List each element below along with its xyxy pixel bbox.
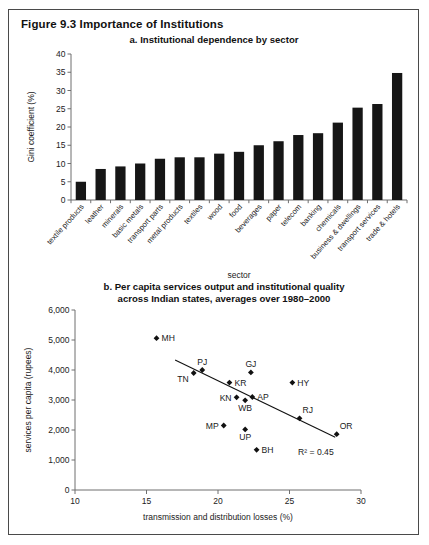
bar: [254, 145, 264, 200]
bar: [352, 108, 362, 200]
data-point-label: AP: [257, 392, 269, 402]
panel-b-y-tick-label: 5,000: [48, 335, 70, 345]
bar: [115, 166, 125, 200]
bar-chart-svg: a. Institutional dependence by sector051…: [9, 32, 418, 284]
data-point-label: HY: [297, 378, 309, 388]
scatter-point: MH: [154, 333, 175, 343]
data-marker: [234, 394, 240, 400]
data-marker: [227, 380, 233, 386]
scatter-chart-svg: b. Per capita services output and instit…: [9, 278, 418, 534]
panel-a-y-tick-label: 30: [56, 86, 66, 96]
bar: [76, 182, 86, 200]
panel-b-x-tick-label: 30: [356, 496, 366, 506]
bar: [175, 157, 185, 200]
panel-b-y-tick-label: 3,000: [48, 395, 70, 405]
panel-b-x-tick-label: 10: [70, 496, 80, 506]
scatter-point: UP: [239, 427, 251, 443]
data-marker: [249, 394, 255, 400]
scatter-point: AP: [249, 392, 269, 402]
scatter-point: OR: [334, 421, 353, 437]
data-marker: [191, 370, 197, 376]
data-point-label: PJ: [197, 357, 207, 367]
scatter-point: MP: [206, 421, 227, 431]
bar: [135, 164, 145, 201]
scatter-point: KN: [220, 393, 240, 403]
panel-a-y-tick-label: 0: [61, 195, 66, 205]
data-point-label: KN: [220, 393, 232, 403]
data-point-label: BH: [262, 445, 274, 455]
bar: [96, 169, 106, 200]
data-point-label: GJ: [245, 359, 256, 369]
panel-a-y-tick-label: 5: [61, 177, 66, 187]
bar: [372, 104, 382, 200]
data-marker: [248, 370, 254, 376]
figure-container: Figure 9.3 Importance of Institutions a.…: [8, 9, 419, 535]
scatter-point: WB: [238, 397, 252, 413]
panel-a-chart: a. Institutional dependence by sector051…: [9, 32, 418, 284]
data-marker: [334, 431, 340, 437]
panel-a-category-label: food: [227, 202, 244, 219]
panel-b-y-axis-title: services per capita (rupees): [23, 347, 33, 452]
panel-b-title-line2: across Indian states, averages over 1980…: [118, 293, 331, 304]
bar: [313, 133, 323, 200]
data-point-label: MP: [206, 421, 219, 431]
panel-a-y-tick-label: 40: [56, 49, 66, 59]
panel-a-category-label: textile products: [45, 202, 86, 246]
bar: [392, 73, 402, 200]
panel-b-x-tick-label: 15: [142, 496, 152, 506]
bar: [273, 141, 283, 200]
data-point-label: RJ: [303, 405, 314, 415]
panel-a-y-tick-label: 15: [56, 140, 66, 150]
panel-b-x-tick-label: 25: [285, 496, 295, 506]
scatter-point: BH: [254, 445, 274, 455]
bar: [194, 157, 204, 200]
panel-b-y-tick-label: 4,000: [48, 365, 70, 375]
data-point-label: TN: [177, 374, 188, 384]
panel-b-y-tick-label: 1,000: [48, 455, 70, 465]
r-squared-annotation: R² = 0.45: [298, 447, 334, 457]
panel-b-x-axis-title: transmission and distribution losses (%): [143, 512, 293, 522]
scatter-point: GJ: [245, 359, 256, 375]
panel-a-category-label: wood: [205, 202, 225, 222]
data-point-label: WB: [238, 403, 252, 413]
data-marker: [289, 380, 295, 386]
bar: [214, 154, 224, 200]
trendline: [175, 360, 335, 437]
bar: [293, 135, 303, 200]
panel-b-x-tick-label: 20: [213, 496, 223, 506]
panel-a-category-label: textiles: [182, 202, 205, 226]
panel-a-y-tick-label: 20: [56, 122, 66, 132]
data-point-label: OR: [340, 421, 353, 431]
panel-a-title: a. Institutional dependence by sector: [130, 34, 299, 45]
panel-a-y-tick-label: 35: [56, 67, 66, 77]
panel-b-y-tick-label: 2,000: [48, 425, 70, 435]
scatter-point: TN: [177, 370, 196, 384]
panel-a-y-tick-label: 25: [56, 104, 66, 114]
scatter-point: RJ: [297, 405, 313, 421]
scatter-point: HY: [289, 378, 309, 388]
data-point-label: MH: [162, 333, 175, 343]
panel-b-y-tick-label: 6,000: [48, 305, 70, 315]
scatter-point: PJ: [197, 357, 207, 373]
panel-b-y-tick-label: 0: [65, 485, 70, 495]
bar: [333, 123, 343, 200]
panel-b-chart: b. Per capita services output and instit…: [9, 278, 418, 534]
data-marker: [221, 423, 227, 429]
data-marker: [297, 415, 303, 421]
data-point-label: UP: [239, 432, 251, 442]
bar: [155, 159, 165, 200]
panel-a-y-axis-title: Gini coefficient (%): [26, 91, 36, 162]
panel-a-y-tick-label: 10: [56, 159, 66, 169]
data-point-label: KR: [234, 378, 246, 388]
figure-title: Figure 9.3 Importance of Institutions: [21, 18, 223, 30]
data-marker: [254, 447, 260, 453]
panel-b-title-line1: b. Per capita services output and instit…: [104, 281, 346, 292]
data-marker: [154, 335, 160, 341]
bar: [234, 152, 244, 200]
